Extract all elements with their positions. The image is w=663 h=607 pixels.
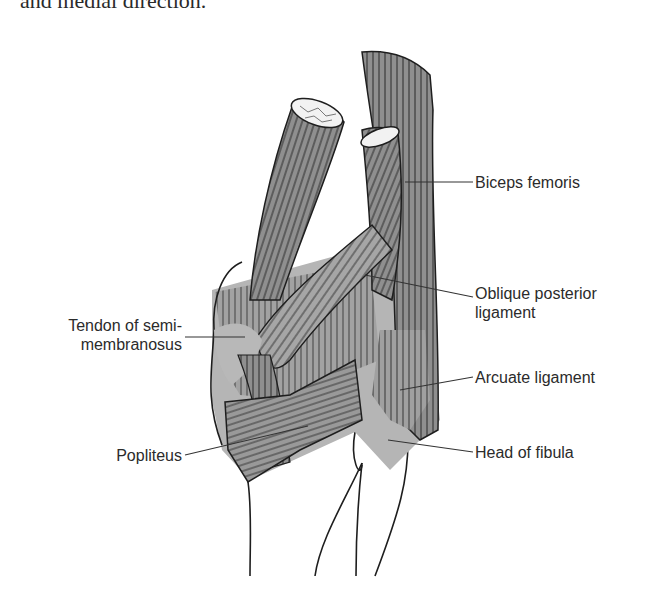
label-arcuate-ligament: Arcuate ligament	[475, 368, 595, 387]
knee-anatomy-illustration	[0, 0, 663, 607]
label-biceps-femoris: Biceps femoris	[475, 173, 580, 192]
label-tendon-semimembranosus-line1: Tendon of semi-	[0, 316, 182, 335]
label-oblique-posterior-ligament-line1: Oblique posterior	[475, 284, 597, 303]
label-popliteus: Popliteus	[0, 446, 182, 465]
label-head-of-fibula: Head of fibula	[475, 443, 574, 462]
label-tendon-semimembranosus-line2: membranosus	[0, 335, 182, 354]
label-oblique-posterior-ligament-line2: ligament	[475, 303, 535, 322]
